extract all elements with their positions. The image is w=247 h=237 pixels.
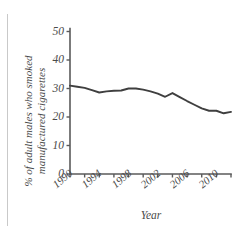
y-tick-label: 40 [38, 54, 64, 66]
chart-ticks [67, 32, 232, 178]
chart-series [70, 86, 231, 114]
x-axis-label: Year [70, 209, 232, 221]
y-tick-label: 30 [38, 83, 64, 95]
y-tick-label: 50 [38, 26, 64, 38]
chart-axes [70, 29, 231, 175]
figure-panel: % of adult males who smoked manufactured… [0, 0, 247, 237]
y-tick-label: 10 [38, 140, 64, 152]
y-tick-label: 20 [38, 111, 64, 123]
